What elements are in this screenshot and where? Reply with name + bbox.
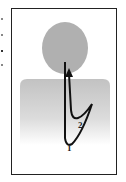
silhouette-diagram [0,0,126,182]
label-2: 2 [78,120,83,130]
label-1: 1 [67,143,72,153]
